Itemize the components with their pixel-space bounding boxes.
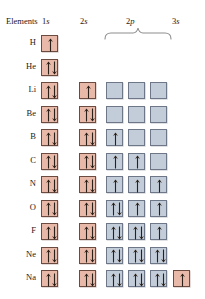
element-symbol: H [0,37,36,47]
spin-down-arrow-icon [89,249,96,263]
orbital-box-2p-3 [150,200,167,217]
spin-down-arrow-icon [89,273,96,287]
spin-down-arrow-icon [160,249,167,263]
orbital-box-2p-2 [128,153,145,170]
spin-down-arrow-icon [51,85,58,99]
orbital-box-2p-1 [106,153,123,170]
spin-down-arrow-icon [51,202,58,216]
orbital-box-2s [79,247,96,264]
orbital-box-2p-2 [128,247,145,264]
spin-down-arrow-icon [138,273,145,287]
orbital-box-2p-2 [128,200,145,217]
spin-up-arrow-icon [112,179,119,193]
table-row: C [0,151,205,173]
orbital-box-2p-1 [106,129,123,146]
table-row: Ne [0,245,205,267]
orbital-box-2p-2 [128,176,145,193]
spin-down-arrow-icon [116,202,123,216]
table-row: H [0,33,205,55]
orbital-box-1s [41,223,58,240]
orbital-box-2p-1 [106,223,123,240]
spin-down-arrow-icon [51,273,58,287]
spin-down-arrow-icon [89,132,96,146]
spin-down-arrow-icon [51,108,58,122]
spin-down-arrow-icon [51,132,58,146]
spin-up-arrow-icon [112,155,119,169]
spin-up-arrow-icon [47,38,54,52]
spin-up-arrow-icon [156,226,163,240]
orbital-box-2s [79,106,96,123]
orbital-box-2p-1 [106,270,123,287]
spin-down-arrow-icon [138,226,145,240]
spin-up-arrow-icon [156,202,163,216]
table-row: N [0,174,205,196]
table-row: B [0,127,205,149]
orbital-box-2p-1 [106,200,123,217]
spin-down-arrow-icon [51,61,58,75]
table-row: F [0,221,205,243]
orbital-box-2s [79,129,96,146]
orbital-box-2p-3 [150,129,167,146]
orbital-box-1s [41,129,58,146]
orbital-box-2p-3 [150,106,167,123]
spin-down-arrow-icon [138,249,145,263]
orbital-box-1s [41,176,58,193]
table-row: Na [0,268,205,290]
element-symbol: Na [0,272,36,282]
table-row: Li [0,80,205,102]
orbital-box-2p-2 [128,270,145,287]
orbital-box-2p-2 [128,106,145,123]
element-symbol: Be [0,108,36,118]
orbital-box-1s [41,153,58,170]
orbital-box-2s [79,200,96,217]
spin-up-arrow-icon [112,132,119,146]
orbital-box-2s [79,270,96,287]
orbital-box-2p-2 [128,223,145,240]
orbital-box-1s [41,270,58,287]
element-symbol: He [0,61,36,71]
element-symbol: Ne [0,249,36,259]
orbital-box-2p-2 [128,82,145,99]
orbital-box-2p-1 [106,247,123,264]
orbital-box-2p-1 [106,106,123,123]
table-row: Be [0,104,205,126]
orbital-box-2p-3 [150,247,167,264]
orbital-box-2p-3 [150,270,167,287]
spin-down-arrow-icon [89,179,96,193]
element-symbol: B [0,131,36,141]
orbital-box-1s [41,35,58,52]
spin-down-arrow-icon [89,202,96,216]
header-1s: 1s [42,16,50,26]
spin-down-arrow-icon [116,226,123,240]
orbital-box-2p-3 [150,176,167,193]
spin-up-arrow-icon [85,85,92,99]
orbital-box-1s [41,200,58,217]
orbital-box-2p-1 [106,82,123,99]
header-2p: 2p [126,16,135,26]
orbital-box-2s [79,153,96,170]
orbital-box-1s [41,106,58,123]
orbital-box-1s [41,247,58,264]
orbital-filling-diagram: Elements 1s 2s 2p 3s HHeLiBeBCNOFNeNa [0,0,205,299]
spin-down-arrow-icon [51,226,58,240]
orbital-box-1s [41,59,58,76]
spin-up-arrow-icon [156,179,163,193]
spin-up-arrow-icon [134,202,141,216]
orbital-box-1s [41,82,58,99]
orbital-box-2p-1 [106,176,123,193]
element-symbol: C [0,155,36,165]
element-symbol: O [0,202,36,212]
spin-up-arrow-icon [134,179,141,193]
spin-down-arrow-icon [116,273,123,287]
spin-down-arrow-icon [51,249,58,263]
element-symbol: Li [0,84,36,94]
orbital-box-3s [173,270,190,287]
spin-up-arrow-icon [134,155,141,169]
table-row: O [0,198,205,220]
spin-down-arrow-icon [51,155,58,169]
orbital-box-2s [79,176,96,193]
spin-up-arrow-icon [179,273,186,287]
orbital-box-2p-3 [150,82,167,99]
header-2s: 2s [80,16,88,26]
orbital-box-2p-2 [128,129,145,146]
